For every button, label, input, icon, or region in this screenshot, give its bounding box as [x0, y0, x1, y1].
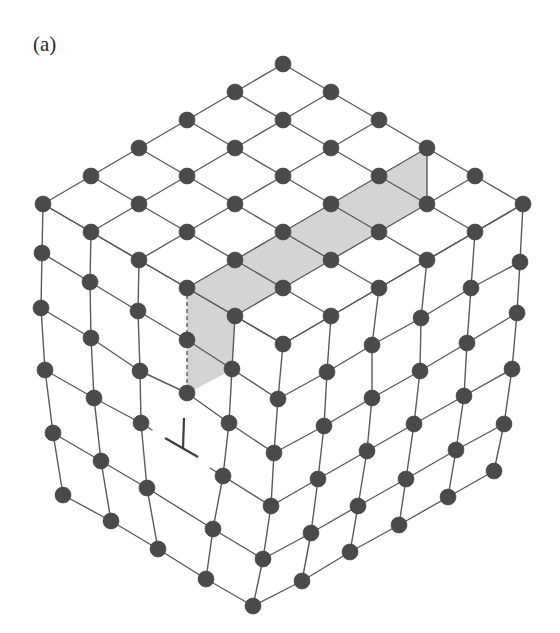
- atom: [323, 252, 339, 268]
- top-face-bond: [331, 120, 379, 148]
- left-face-bond: [147, 488, 213, 529]
- top-face-bond: [283, 288, 331, 316]
- right-face-bond: [406, 424, 414, 479]
- left-face-bond: [42, 253, 90, 282]
- right-face-bond: [406, 450, 456, 479]
- right-face-bond: [421, 288, 471, 318]
- top-face-bond: [427, 204, 475, 232]
- left-face-bond: [53, 433, 101, 461]
- atom: [179, 224, 195, 240]
- atom: [323, 196, 339, 212]
- right-face-bond: [318, 451, 367, 479]
- atom: [133, 415, 149, 431]
- top-face-bond: [187, 204, 235, 232]
- left-face-bond: [41, 308, 45, 370]
- atom: [456, 388, 472, 404]
- atom: [515, 196, 531, 212]
- atom: [131, 196, 147, 212]
- atom: [270, 391, 286, 407]
- top-face-bond: [235, 176, 283, 204]
- left-face-bond: [43, 204, 91, 232]
- extra-half-plane-shading: [187, 148, 427, 393]
- atom: [103, 513, 119, 529]
- left-face-bond: [138, 311, 187, 340]
- top-face-bond: [139, 176, 187, 204]
- atom: [406, 416, 422, 432]
- atom: [227, 140, 243, 156]
- left-face-bond: [91, 338, 94, 398]
- right-face-bond: [372, 318, 421, 345]
- left-face-bond: [141, 423, 147, 488]
- right-face-bond: [324, 398, 372, 426]
- atom: [35, 196, 51, 212]
- atom: [512, 254, 528, 270]
- left-face-bond: [213, 529, 263, 559]
- top-face-bond: [283, 64, 331, 92]
- top-face-bond: [283, 176, 331, 204]
- atom: [275, 112, 291, 128]
- right-face-bond: [350, 525, 399, 552]
- atom: [413, 310, 429, 326]
- left-face-bond: [45, 370, 94, 398]
- atom: [150, 541, 166, 557]
- atom: [275, 168, 291, 184]
- left-face-bond: [91, 232, 139, 260]
- top-face-bond: [427, 176, 475, 204]
- top-face-bond: [91, 176, 139, 204]
- atom: [215, 468, 231, 484]
- right-face-bond: [504, 369, 512, 424]
- atom: [275, 224, 291, 240]
- left-face-bond: [41, 308, 91, 338]
- right-face-bond: [471, 262, 520, 288]
- atom: [294, 573, 310, 589]
- right-face-bond: [475, 204, 523, 232]
- atom: [371, 168, 387, 184]
- atom: [179, 112, 195, 128]
- right-face-bond: [421, 260, 427, 318]
- left-face-bond: [223, 476, 271, 506]
- edge-dislocation-symbol-icon: [165, 418, 198, 457]
- right-face-bond: [399, 497, 448, 525]
- atom: [398, 471, 414, 487]
- top-face-bond: [379, 232, 427, 260]
- atom: [412, 363, 428, 379]
- atom: [227, 84, 243, 100]
- atom: [504, 361, 520, 377]
- atom: [263, 498, 279, 514]
- top-face-bond: [235, 204, 283, 232]
- atom: [83, 330, 99, 346]
- top-face-bond: [139, 204, 187, 232]
- left-face-bond: [90, 282, 138, 311]
- top-face-bond: [139, 148, 187, 176]
- left-face-bond: [138, 311, 140, 371]
- atom: [205, 521, 221, 537]
- left-face-bond: [147, 488, 158, 549]
- top-face-bond: [139, 232, 187, 260]
- atom: [310, 471, 326, 487]
- atom: [179, 385, 195, 401]
- top-face-bond: [283, 120, 331, 148]
- right-face-bond: [302, 552, 350, 581]
- right-face-bond: [379, 260, 427, 288]
- atom: [227, 308, 243, 324]
- atom: [275, 336, 291, 352]
- atom: [467, 224, 483, 240]
- atom: [364, 337, 380, 353]
- right-face-bond: [358, 451, 367, 506]
- atom: [33, 300, 49, 316]
- atom: [275, 56, 291, 72]
- atom: [323, 308, 339, 324]
- top-face-bond: [187, 148, 235, 176]
- atom: [34, 245, 50, 261]
- right-face-bond: [427, 232, 475, 260]
- atom: [224, 361, 240, 377]
- left-face-bond: [101, 461, 111, 521]
- atom: [179, 168, 195, 184]
- right-face-bond: [471, 232, 475, 288]
- top-face-bond: [139, 120, 187, 148]
- left-face-bond: [90, 282, 91, 338]
- atom: [371, 112, 387, 128]
- atom: [350, 498, 366, 514]
- atom: [139, 480, 155, 496]
- atom: [245, 598, 261, 614]
